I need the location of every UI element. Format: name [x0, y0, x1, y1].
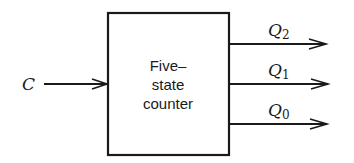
output-arrow-icon	[229, 79, 328, 89]
input-label-c: C	[22, 74, 35, 94]
output-label-q0: Q0	[268, 100, 290, 122]
block-label-line-1: Five–	[150, 57, 187, 74]
output-q0: Q0	[229, 100, 327, 129]
block-label-line-2: state	[152, 76, 185, 93]
input-arrow-icon	[44, 79, 107, 89]
block-label-line-3: counter	[143, 95, 193, 112]
output-arrow-icon	[229, 39, 326, 49]
output-arrow-icon	[229, 119, 327, 129]
output-q2: Q2	[229, 20, 326, 49]
counter-block-diagram: Five– state counter C Q2 Q1 Q0	[0, 0, 354, 163]
output-label-q2: Q2	[268, 20, 290, 42]
output-q1: Q1	[229, 60, 328, 89]
output-label-q1: Q1	[268, 60, 290, 82]
